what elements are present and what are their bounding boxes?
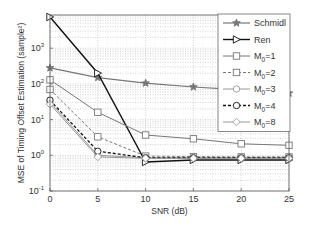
x-tick-label: 15 (188, 194, 198, 204)
square-marker-icon (190, 136, 196, 142)
square-marker-icon (95, 134, 101, 140)
x-tick-label: 20 (236, 194, 246, 204)
legend: SchmidlRenM0=1M0=2M0=3M0=4M0=8 (218, 14, 290, 132)
legend-label: Ren (254, 35, 271, 45)
square-marker-icon (238, 141, 244, 147)
y-axis-label: MSE of Timing Offset Estimation (sample²… (16, 23, 26, 184)
x-tick-label: 25 (284, 194, 294, 204)
square-marker-icon (142, 132, 148, 138)
x-tick-label: 5 (95, 194, 100, 204)
y-tick-label: 10-1 (29, 185, 45, 196)
circle-legend-icon (233, 102, 239, 108)
square-marker-icon (95, 109, 101, 115)
y-tick-label: 102 (31, 78, 45, 89)
y-tick-label: 100 (31, 149, 45, 160)
x-axis-label: SNR (dB) (151, 206, 188, 216)
square-legend-icon (233, 69, 239, 75)
circle-legend-icon (233, 86, 239, 92)
chart: 0510152025 10-1100101102103 SNR (dB) MSE… (0, 0, 309, 228)
legend-label: Schmidl (254, 18, 286, 28)
x-tick-label: 10 (141, 194, 151, 204)
x-axis-ticks: 0510152025 (47, 188, 294, 204)
x-tick-label: 0 (47, 194, 52, 204)
y-tick-label: 101 (31, 114, 45, 125)
square-legend-icon (233, 53, 239, 59)
y-tick-label: 103 (31, 42, 45, 53)
